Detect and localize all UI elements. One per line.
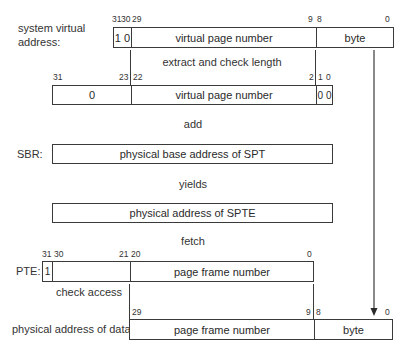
byte-offset-arrow bbox=[0, 0, 404, 355]
arrow-head-icon bbox=[371, 308, 378, 316]
